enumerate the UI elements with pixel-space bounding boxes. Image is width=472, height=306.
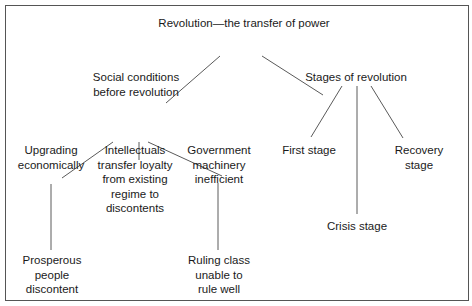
node-ruling-class: Ruling class unable to rule well (188, 253, 250, 297)
edge-stages-first (311, 86, 342, 137)
edge-stages-recovery (371, 86, 403, 138)
node-upgrading-economically: Upgrading economically (18, 143, 84, 172)
node-crisis-stage: Crisis stage (327, 219, 387, 234)
root-node: Revolution—the transfer of power (158, 16, 329, 31)
node-government-machinery: Government machinery inefficient (187, 143, 250, 187)
node-intellectuals: Intellectuals transfer loyalty from exis… (98, 143, 173, 216)
node-prosperous-people: Prosperous people discontent (23, 253, 82, 297)
node-first-stage: First stage (282, 143, 336, 158)
branch-stages-of-revolution: Stages of revolution (305, 70, 407, 85)
branch-social-conditions: Social conditions before revolution (93, 70, 179, 99)
node-recovery-stage: Recovery stage (393, 143, 446, 172)
